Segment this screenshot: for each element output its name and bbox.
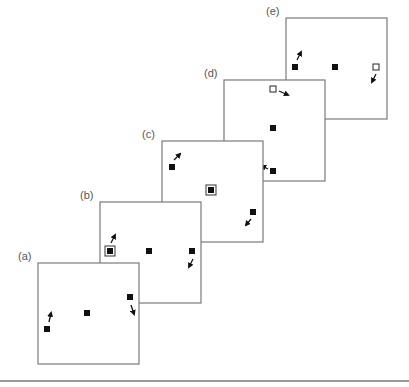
panel-sequence-diagram: (e)(d)(c)(b)(a) <box>0 0 409 387</box>
filled-square-marker-icon <box>107 248 113 254</box>
panel-a: (a) <box>18 250 139 364</box>
filled-square-marker-icon <box>127 294 133 300</box>
filled-square-marker-icon <box>332 64 338 70</box>
panel-label: (c) <box>142 128 155 140</box>
filled-square-marker-icon <box>189 248 195 254</box>
filled-square-marker-icon <box>270 125 276 131</box>
open-square-marker-icon <box>373 64 379 70</box>
panel-label: (d) <box>204 67 217 79</box>
filled-square-marker-icon <box>208 187 214 193</box>
panel-label: (e) <box>266 5 279 17</box>
filled-square-marker-icon <box>270 168 276 174</box>
filled-square-marker-icon <box>146 248 152 254</box>
filled-square-marker-icon <box>84 310 90 316</box>
filled-square-marker-icon <box>44 326 50 332</box>
panel-label: (a) <box>18 250 31 262</box>
filled-square-marker-icon <box>250 209 256 215</box>
filled-square-marker-icon <box>292 64 298 70</box>
filled-square-marker-icon <box>169 164 175 170</box>
open-square-marker-icon <box>270 86 276 92</box>
panel-label: (b) <box>80 189 93 201</box>
